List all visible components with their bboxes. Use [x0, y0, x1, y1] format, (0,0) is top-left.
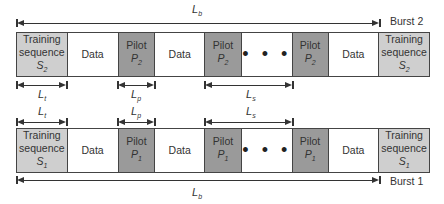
- pilot-p2: Pilot P2: [119, 33, 156, 76]
- pilot-length-label-bottom: Lp: [131, 105, 141, 119]
- data-block: Data: [155, 33, 205, 76]
- training-sequence-s2: Trainingsequence S2: [379, 33, 429, 76]
- data-block: Data: [155, 129, 205, 172]
- burst1-label: Burst 1: [390, 175, 423, 187]
- data-block: Data: [68, 33, 119, 76]
- pilot-p1: Pilot P1: [205, 129, 242, 172]
- burst1-frame: Trainingsequence S1 Data Pilot P1 Data P…: [16, 128, 430, 173]
- training-length-label-bottom: Lt: [38, 105, 46, 119]
- training-length-label-top: Lt: [38, 88, 46, 102]
- ellipsis-block: • • •: [242, 129, 293, 172]
- training-sequence-s1: Trainingsequence S1: [17, 129, 68, 172]
- burst2-frame: Trainingsequence S2 Data Pilot P2 Data P…: [16, 32, 430, 77]
- training-sequence-s2: Trainingsequence S2: [17, 33, 68, 76]
- data-block: Data: [329, 129, 380, 172]
- ellipsis-block: • • •: [242, 33, 293, 76]
- burst1-length-label: Lb: [192, 186, 202, 200]
- data-block: Data: [68, 129, 119, 172]
- training-sequence-s1: Trainingsequence S1: [379, 129, 429, 172]
- pilot-p1: Pilot P1: [119, 129, 156, 172]
- pilot-length-label-top: Lp: [131, 88, 141, 102]
- pilot-spacing-label-top: Ls: [246, 88, 256, 102]
- pilot-spacing-label-bottom: Ls: [246, 105, 256, 119]
- data-block: Data: [329, 33, 380, 76]
- pilot-p1: Pilot P1: [293, 129, 329, 172]
- pilot-p2: Pilot P2: [205, 33, 242, 76]
- burst2-label: Burst 2: [390, 15, 423, 27]
- burst2-length-label: Lb: [192, 3, 202, 17]
- pilot-p2: Pilot P2: [293, 33, 329, 76]
